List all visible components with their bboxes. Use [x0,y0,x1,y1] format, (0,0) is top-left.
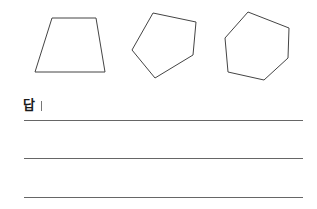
answer-line-3[interactable] [24,197,303,198]
answer-label-divider [41,101,42,111]
polygon-figures [0,0,317,95]
pentagon-shape [132,13,196,78]
answer-line-2[interactable] [24,158,303,159]
trapezoid-shape [35,18,105,72]
hexagon-shape [225,12,289,80]
answer-line-1[interactable] [24,120,303,121]
answer-label: 답 [23,98,35,112]
